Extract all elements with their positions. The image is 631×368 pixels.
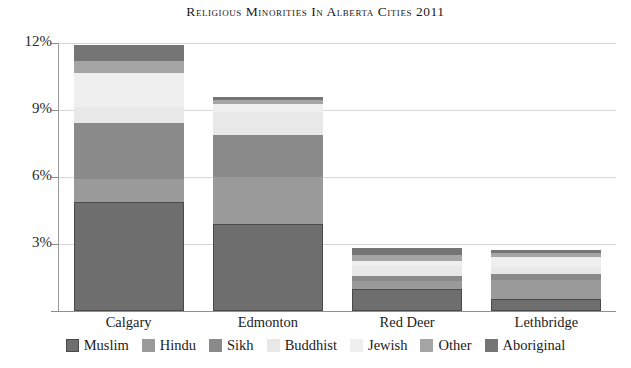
bar-segment-hindu[interactable] [213, 177, 323, 224]
x-axis-line [58, 311, 616, 312]
bar-segment-sikh[interactable] [213, 135, 323, 177]
y-axis-tick-label: 9% [32, 100, 52, 117]
legend-swatch-icon [209, 339, 222, 352]
bar-segment-jewish[interactable] [352, 261, 462, 267]
legend-label: Sikh [227, 338, 254, 353]
bar-segment-buddhist[interactable] [491, 267, 601, 274]
legend-item-sikh[interactable]: Sikh [209, 338, 254, 353]
y-axis-tick [51, 110, 58, 111]
category-label-red-deer: Red Deer [338, 314, 477, 331]
bar-segment-sikh[interactable] [491, 274, 601, 280]
legend-swatch-icon [66, 339, 79, 352]
stacked-bar [352, 43, 462, 311]
bar-segment-aboriginal[interactable] [213, 97, 323, 100]
legend-item-hindu[interactable]: Hindu [142, 338, 196, 353]
bar-segment-muslim[interactable] [352, 289, 462, 311]
chart-legend: MuslimHinduSikhBuddhistJewishOtherAborig… [0, 338, 631, 353]
bar-segment-muslim[interactable] [213, 224, 323, 311]
bar-segment-hindu[interactable] [74, 179, 184, 201]
bar-segment-other[interactable] [74, 61, 184, 73]
stacked-bar [491, 43, 601, 311]
plot-area [59, 43, 616, 311]
y-axis-tick [51, 177, 58, 178]
bar-segment-other[interactable] [352, 255, 462, 261]
legend-item-jewish[interactable]: Jewish [350, 338, 407, 353]
bar-segment-other[interactable] [491, 253, 601, 257]
stacked-bar [213, 43, 323, 311]
bar-segment-aboriginal[interactable] [491, 250, 601, 253]
stacked-bar [74, 43, 184, 311]
category-label-calgary: Calgary [59, 314, 198, 331]
y-axis-tick-label: 12% [25, 33, 53, 50]
legend-label: Jewish [368, 338, 407, 353]
legend-swatch-icon [420, 339, 433, 352]
bar-segment-aboriginal[interactable] [352, 248, 462, 255]
legend-item-aboriginal[interactable]: Aboriginal [485, 338, 566, 353]
y-axis-tick-label: 3% [32, 234, 52, 251]
legend-swatch-icon [267, 339, 280, 352]
chart-title: Religious Minorities in Alberta Cities 2… [0, 4, 631, 20]
bar-segment-muslim[interactable] [74, 202, 184, 311]
chart-container: Religious Minorities in Alberta Cities 2… [0, 0, 631, 368]
bar-segment-hindu[interactable] [491, 280, 601, 299]
category-label-lethbridge: Lethbridge [477, 314, 616, 331]
bar-segment-buddhist[interactable] [213, 112, 323, 134]
bar-segment-buddhist[interactable] [352, 266, 462, 276]
legend-label: Muslim [84, 338, 129, 353]
bar-red-deer[interactable] [352, 43, 462, 311]
bar-segment-other[interactable] [213, 100, 323, 104]
bar-segment-buddhist[interactable] [74, 107, 184, 124]
bar-lethbridge[interactable] [491, 43, 601, 311]
legend-label: Aboriginal [503, 338, 566, 353]
legend-label: Other [438, 338, 471, 353]
legend-item-buddhist[interactable]: Buddhist [267, 338, 337, 353]
legend-swatch-icon [350, 339, 363, 352]
legend-swatch-icon [485, 339, 498, 352]
bar-segment-aboriginal[interactable] [74, 45, 184, 61]
bar-segment-hindu[interactable] [352, 281, 462, 289]
y-axis-tick [51, 244, 58, 245]
y-axis-tick [51, 311, 58, 312]
bar-calgary[interactable] [74, 43, 184, 311]
bar-segment-sikh[interactable] [352, 276, 462, 280]
legend-label: Hindu [160, 338, 196, 353]
legend-swatch-icon [142, 339, 155, 352]
category-label-edmonton: Edmonton [198, 314, 337, 331]
bar-segment-muslim[interactable] [491, 299, 601, 311]
legend-item-muslim[interactable]: Muslim [66, 338, 129, 353]
y-axis-tick [51, 43, 58, 44]
bar-segment-jewish[interactable] [74, 73, 184, 107]
bar-segment-jewish[interactable] [213, 104, 323, 112]
legend-item-other[interactable]: Other [420, 338, 471, 353]
bar-segment-sikh[interactable] [74, 123, 184, 179]
legend-label: Buddhist [285, 338, 337, 353]
bar-edmonton[interactable] [213, 43, 323, 311]
bar-segment-jewish[interactable] [491, 257, 601, 267]
y-axis-tick-label: 6% [32, 167, 52, 184]
